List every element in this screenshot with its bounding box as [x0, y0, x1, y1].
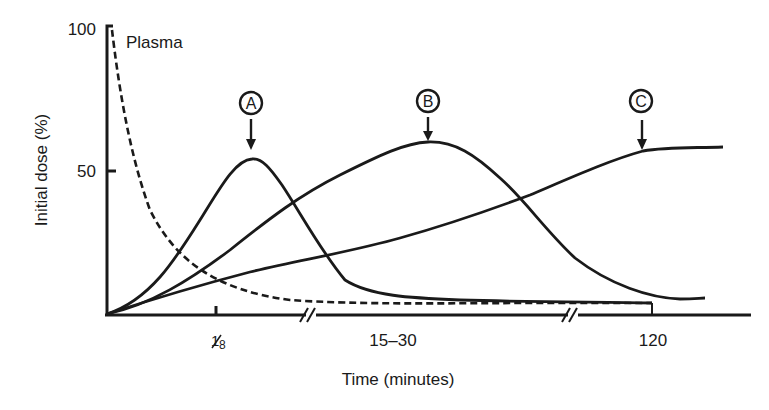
y-tick-label-100: 100 [68, 20, 96, 39]
x-tick-label-mid: 15–30 [369, 331, 416, 350]
marker-a-label: A [246, 95, 257, 112]
curve-a [107, 159, 652, 314]
y-axis-title: Initial dose (%) [32, 114, 51, 226]
marker-a: A [240, 92, 262, 150]
arrow-down-icon [637, 139, 647, 150]
curve-b [107, 142, 705, 314]
y-tick-label-50: 50 [77, 162, 96, 181]
marker-b-label: B [423, 93, 434, 110]
x-tick-label-120: 120 [639, 331, 667, 350]
arrow-down-icon [246, 139, 256, 150]
x-tick-label-eighth: 1 8 [211, 332, 226, 352]
marker-c-label: C [635, 93, 647, 110]
plasma-label: Plasma [126, 33, 183, 52]
arrow-down-icon [423, 131, 433, 141]
marker-c: C [630, 90, 652, 150]
chart: A B C Plasma 100 50 Initial dose (%) 1 8… [0, 0, 769, 410]
marker-b: B [417, 90, 439, 141]
x-axis-title: Time (minutes) [342, 370, 455, 389]
fraction-denominator: 8 [219, 338, 226, 352]
plasma-curve [112, 30, 652, 303]
